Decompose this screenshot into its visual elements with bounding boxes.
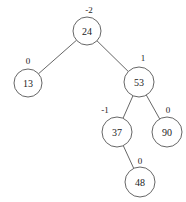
balance-factor: -1 xyxy=(101,105,109,115)
edge-37-48 xyxy=(123,146,133,169)
node-key: 48 xyxy=(135,177,145,188)
tree-node-13: 130 xyxy=(14,56,42,97)
edge-24-53 xyxy=(97,41,128,72)
balance-factor: -2 xyxy=(85,5,93,15)
balance-factor: 0 xyxy=(26,56,31,66)
tree-node-53: 531 xyxy=(124,53,154,97)
balance-factor: 0 xyxy=(138,156,143,166)
tree-node-24: 24-2 xyxy=(73,5,101,45)
balance-factor: 1 xyxy=(141,53,146,63)
avl-tree-diagram: 24-213053137-1900480 xyxy=(0,0,186,202)
node-key: 37 xyxy=(112,127,122,138)
tree-node-37: 37-1 xyxy=(101,105,132,147)
node-key: 13 xyxy=(23,78,33,89)
tree-node-48: 480 xyxy=(125,156,155,197)
node-key: 24 xyxy=(82,26,92,37)
edge-53-90 xyxy=(146,95,159,119)
edge-53-37 xyxy=(123,96,133,119)
node-key: 53 xyxy=(134,77,144,88)
balance-factor: 0 xyxy=(166,105,171,115)
node-key: 90 xyxy=(162,127,172,138)
nodes: 24-213053137-1900480 xyxy=(14,5,182,197)
tree-node-90: 900 xyxy=(152,105,182,147)
edge-24-13 xyxy=(39,40,77,73)
